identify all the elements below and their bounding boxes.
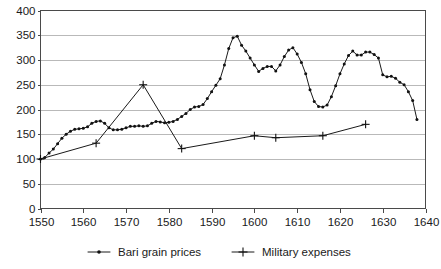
x-axis-tick-label: 1600 — [242, 216, 268, 228]
legend-label: Bari grain prices — [118, 246, 201, 258]
marker-dot — [69, 130, 72, 133]
marker-dot — [236, 35, 239, 38]
marker-dot — [210, 90, 213, 93]
marker-dot — [219, 77, 222, 80]
marker-plus — [362, 120, 370, 128]
marker-dot — [184, 112, 187, 115]
x-axis-tick-label: 1560 — [71, 216, 97, 228]
marker-dot — [172, 120, 175, 123]
marker-dot — [368, 51, 371, 54]
marker-dot — [338, 72, 341, 75]
marker-plus — [178, 145, 186, 153]
y-axis-tick-label: 200 — [16, 104, 35, 116]
legend-item[interactable]: Bari grain prices — [88, 246, 201, 258]
marker-dot — [249, 57, 252, 60]
x-axis-tick-label: 1610 — [285, 216, 311, 228]
x-axis-tick-label: 1570 — [114, 216, 140, 228]
marker-dot — [146, 124, 149, 127]
marker-dot — [52, 148, 55, 151]
marker-dot — [223, 63, 226, 66]
marker-dot — [197, 105, 200, 108]
marker-dot — [112, 128, 115, 131]
marker-dot — [240, 44, 243, 47]
marker-dot — [253, 63, 256, 66]
marker-dot — [386, 75, 389, 78]
marker-dot — [206, 97, 209, 100]
marker-dot — [95, 120, 98, 123]
marker-dot — [133, 125, 136, 128]
marker-dot — [48, 152, 51, 155]
marker-dot — [326, 104, 329, 107]
marker-dot — [227, 47, 230, 50]
marker-dot — [193, 106, 196, 109]
marker-dot — [82, 127, 85, 130]
marker-dot — [167, 121, 170, 124]
x-axis-tick-label: 1640 — [414, 216, 440, 228]
marker-dot — [334, 84, 337, 87]
marker-dot — [356, 54, 359, 57]
marker-dot — [90, 122, 93, 125]
x-axis-ticks — [42, 209, 427, 213]
plot-frame — [41, 11, 426, 209]
marker-dot — [99, 119, 102, 122]
marker-dot — [116, 128, 119, 131]
marker-dot — [214, 84, 217, 87]
line-chart: 050100150200250300350400 155015601570158… — [0, 0, 441, 269]
x-axis-tick-label: 1590 — [200, 216, 226, 228]
marker-dot — [381, 73, 384, 76]
marker-dot — [266, 65, 269, 68]
marker-dot — [176, 118, 179, 121]
marker-dot — [129, 125, 132, 128]
marker-dot — [330, 95, 333, 98]
marker-plus — [239, 248, 248, 257]
gridlines-group — [41, 36, 426, 185]
y-axis-tick-label: 300 — [16, 54, 35, 66]
marker-dot — [159, 120, 162, 123]
marker-plus — [37, 155, 45, 163]
marker-dot — [364, 51, 367, 54]
marker-dot — [65, 133, 68, 136]
marker-dot — [150, 122, 153, 125]
y-axis-tick-label: 150 — [16, 128, 35, 140]
marker-dot — [56, 142, 59, 145]
legend-item[interactable]: Military expenses — [232, 246, 351, 258]
legend-label: Military expenses — [262, 246, 351, 258]
marker-dot — [296, 53, 299, 56]
marker-dot — [415, 118, 418, 121]
y-axis-tick-label: 0 — [29, 203, 35, 215]
marker-dot — [403, 83, 406, 86]
marker-plus — [319, 132, 327, 140]
marker-dot — [347, 54, 350, 57]
x-axis-tick-label: 1630 — [371, 216, 397, 228]
marker-dot — [304, 72, 307, 75]
marker-dot — [343, 62, 346, 65]
marker-dot — [232, 36, 235, 39]
marker-dot — [279, 63, 282, 66]
marker-dot — [411, 99, 414, 102]
legend-marker-dot — [97, 250, 101, 254]
marker-dot — [261, 67, 264, 70]
chart-legend: Bari grain pricesMilitary expenses — [88, 246, 351, 258]
marker-dot — [300, 61, 303, 64]
marker-dot — [317, 105, 320, 108]
marker-plus — [250, 132, 258, 140]
marker-dot — [60, 137, 63, 140]
marker-dot — [155, 120, 158, 123]
marker-dot — [125, 126, 128, 129]
marker-dot — [103, 122, 106, 125]
x-axis-tick-label: 1550 — [29, 216, 55, 228]
series-military-expenses — [37, 81, 370, 163]
marker-dot — [321, 106, 324, 109]
x-axis-tick-labels: 1550156015701580159016001610162016301640 — [29, 216, 440, 228]
x-axis-tick-label: 1580 — [157, 216, 183, 228]
y-axis-tick-label: 50 — [23, 178, 36, 190]
x-axis-tick-label: 1620 — [328, 216, 354, 228]
marker-dot — [120, 128, 123, 131]
marker-dot — [244, 50, 247, 53]
marker-dot — [257, 70, 260, 73]
marker-dot — [373, 53, 376, 56]
y-axis-tick-label: 400 — [16, 5, 35, 17]
marker-dot — [270, 65, 273, 68]
marker-dot — [394, 77, 397, 80]
y-axis-tick-label: 100 — [16, 153, 35, 165]
